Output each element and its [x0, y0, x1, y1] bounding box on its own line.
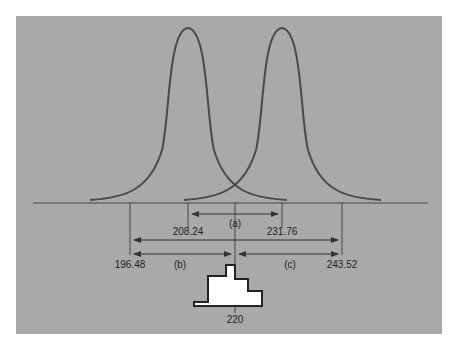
label-231-76: 231.76 — [267, 226, 298, 237]
left-distribution-curve — [90, 28, 287, 200]
label-196-48: 196.48 — [115, 259, 146, 270]
label-span-a: (a) — [229, 218, 241, 229]
label-center-220: 220 — [227, 314, 244, 325]
right-distribution-curve — [184, 28, 381, 200]
distribution-diagram — [0, 0, 454, 343]
label-span-b: (b) — [174, 259, 186, 270]
label-span-c: (c) — [284, 259, 296, 270]
label-243-52: 243.52 — [327, 259, 358, 270]
histogram-shape — [194, 265, 262, 306]
label-208-24: 208.24 — [173, 226, 204, 237]
